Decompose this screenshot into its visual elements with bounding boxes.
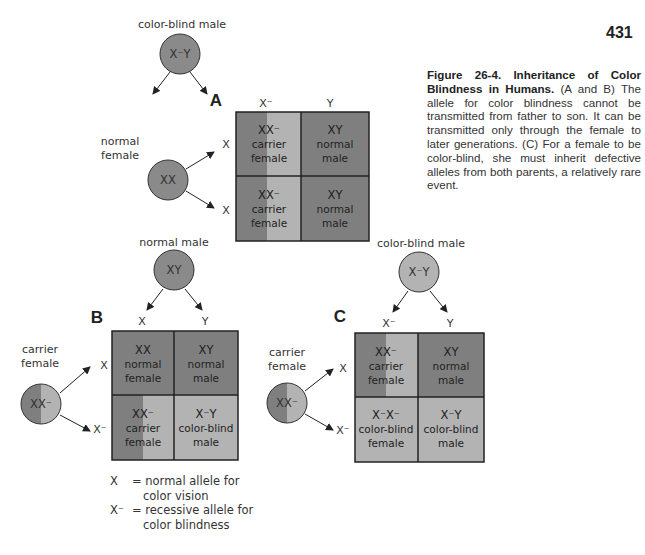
legend-text: = recessive allele for bbox=[132, 503, 253, 517]
svg-text:color-blind: color-blind bbox=[359, 423, 414, 435]
svg-text:XX⁻: XX⁻ bbox=[132, 407, 154, 421]
legend-item-normal: X = normal allele for color vision bbox=[110, 474, 302, 503]
panel-a-mother-label-2: female bbox=[101, 149, 139, 162]
panel-a-father-label: color-blind male bbox=[138, 18, 226, 31]
svg-text:carrier: carrier bbox=[252, 203, 287, 215]
panel-c: color-blind male X⁻Y C X⁻ Y carrier fema… bbox=[267, 237, 484, 462]
panel-c-mother-label-2: female bbox=[268, 360, 306, 373]
legend-symbol: X bbox=[110, 474, 132, 503]
panel-a: color-blind male X⁻Y A X⁻ Y normal femal… bbox=[101, 18, 369, 241]
panel-c-label: C bbox=[334, 307, 346, 326]
svg-text:normal: normal bbox=[317, 138, 354, 150]
svg-text:male: male bbox=[193, 372, 219, 384]
legend-text-cont: color vision bbox=[143, 489, 209, 503]
panel-c-mother-label-1: carrier bbox=[269, 346, 305, 359]
panel-c-row-gamete-1: X bbox=[339, 362, 347, 375]
svg-text:carrier: carrier bbox=[252, 138, 287, 150]
panel-b-col-gamete-1: X bbox=[138, 315, 146, 328]
legend-symbol: X⁻ bbox=[110, 503, 132, 532]
svg-text:carrier: carrier bbox=[369, 360, 404, 372]
panel-b-row-gamete-1: X bbox=[100, 359, 108, 372]
panel-b-mother-label-2: female bbox=[21, 357, 59, 370]
panel-a-row-gamete-1: X bbox=[222, 138, 230, 151]
svg-text:female: female bbox=[368, 437, 404, 449]
svg-text:XY: XY bbox=[199, 343, 215, 357]
svg-text:XX⁻: XX⁻ bbox=[258, 188, 280, 202]
panel-b-label: B bbox=[91, 308, 103, 327]
panel-c-father-genotype: X⁻Y bbox=[409, 265, 431, 279]
panel-b: normal male XY B X Y carrier female XX⁻ … bbox=[21, 236, 238, 460]
panel-b-row-gamete-2: X⁻ bbox=[93, 423, 107, 436]
panel-a-mother-genotype: XX bbox=[160, 173, 176, 187]
svg-text:male: male bbox=[438, 437, 464, 449]
svg-text:normal: normal bbox=[433, 360, 470, 372]
svg-text:female: female bbox=[368, 374, 404, 386]
svg-text:male: male bbox=[438, 374, 464, 386]
svg-text:carrier: carrier bbox=[126, 422, 161, 434]
inheritance-diagram: color-blind male X⁻Y A X⁻ Y normal femal… bbox=[0, 0, 645, 555]
panel-c-row-gamete-2: X⁻ bbox=[336, 424, 350, 437]
panel-c-col-gamete-2: Y bbox=[446, 317, 454, 330]
svg-text:XY: XY bbox=[328, 123, 344, 137]
svg-text:female: female bbox=[125, 436, 161, 448]
panel-a-father-genotype: X⁻Y bbox=[170, 47, 192, 61]
svg-text:male: male bbox=[322, 217, 348, 229]
svg-text:normal: normal bbox=[188, 358, 225, 370]
svg-text:XX⁻: XX⁻ bbox=[375, 345, 397, 359]
svg-text:XX⁻: XX⁻ bbox=[258, 123, 280, 137]
svg-text:X⁻X⁻: X⁻X⁻ bbox=[372, 408, 400, 422]
legend-item-recessive: X⁻ = recessive allele for color blindnes… bbox=[110, 503, 302, 532]
svg-text:female: female bbox=[251, 217, 287, 229]
svg-text:X⁻Y: X⁻Y bbox=[196, 407, 218, 421]
svg-text:female: female bbox=[125, 372, 161, 384]
panel-b-mother-label-1: carrier bbox=[22, 343, 58, 356]
svg-text:male: male bbox=[193, 436, 219, 448]
svg-text:XX: XX bbox=[135, 343, 151, 357]
svg-text:male: male bbox=[322, 152, 348, 164]
panel-b-father-label: normal male bbox=[139, 236, 209, 249]
svg-text:normal: normal bbox=[125, 358, 162, 370]
svg-text:color-blind: color-blind bbox=[424, 423, 479, 435]
panel-c-col-gamete-1: X⁻ bbox=[382, 317, 396, 330]
panel-a-col-gamete-1: X⁻ bbox=[259, 97, 273, 110]
panel-c-father-label: color-blind male bbox=[377, 237, 465, 250]
allele-legend: X = normal allele for color vision X⁻ = … bbox=[110, 474, 302, 532]
panel-a-col-gamete-2: Y bbox=[326, 97, 334, 110]
panel-b-father-genotype: XY bbox=[167, 263, 183, 277]
panel-a-mother-label-1: normal bbox=[101, 135, 140, 148]
panel-b-col-gamete-2: Y bbox=[201, 315, 209, 328]
svg-text:normal: normal bbox=[317, 203, 354, 215]
legend-text: = normal allele for bbox=[132, 474, 240, 488]
svg-text:female: female bbox=[251, 152, 287, 164]
svg-text:color-blind: color-blind bbox=[179, 422, 234, 434]
panel-b-mother-genotype: XX⁻ bbox=[30, 397, 52, 411]
svg-text:XY: XY bbox=[444, 345, 460, 359]
panel-c-mother-genotype: XX⁻ bbox=[276, 396, 298, 410]
svg-text:XY: XY bbox=[328, 188, 344, 202]
legend-text-cont: color blindness bbox=[143, 518, 230, 532]
svg-text:X⁻Y: X⁻Y bbox=[441, 408, 463, 422]
panel-a-row-gamete-2: X bbox=[222, 204, 230, 217]
panel-a-label: A bbox=[210, 91, 222, 110]
